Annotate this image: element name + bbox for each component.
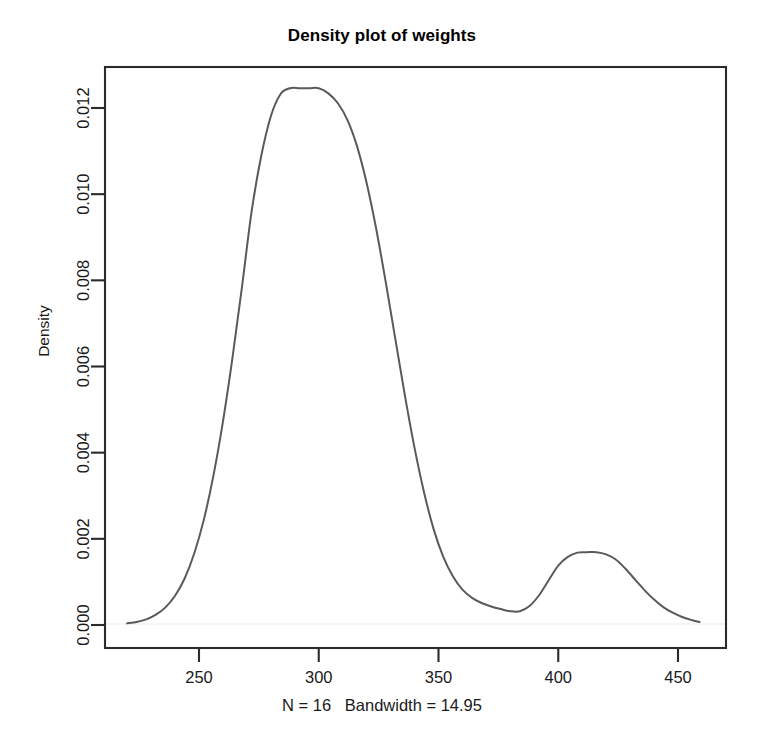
svg-text:250: 250 [185,668,213,686]
svg-text:350: 350 [425,668,453,686]
svg-text:0.002: 0.002 [74,518,92,559]
svg-text:300: 300 [305,668,333,686]
svg-text:450: 450 [664,668,692,686]
plot-canvas: 250300350400450 0.0000.0020.0040.0060.00… [0,0,764,740]
svg-text:0.008: 0.008 [74,260,92,301]
svg-text:0.010: 0.010 [74,174,92,215]
plot-frame [105,67,726,648]
svg-text:0.006: 0.006 [74,346,92,387]
y-axis: 0.0000.0020.0040.0060.0080.0100.012 [74,87,105,645]
x-axis: 250300350400450 [185,648,692,686]
density-curve [127,88,699,624]
svg-text:0.000: 0.000 [74,604,92,645]
svg-text:0.012: 0.012 [74,87,92,128]
svg-text:0.004: 0.004 [74,432,92,473]
density-plot-figure: Density plot of weights Density N = 16 B… [0,0,764,740]
svg-text:400: 400 [544,668,572,686]
